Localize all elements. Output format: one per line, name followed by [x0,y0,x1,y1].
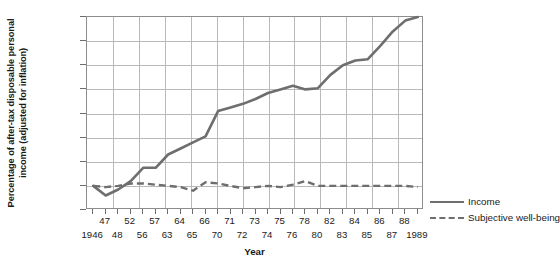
x-axis-tick-label: 88 [391,216,417,226]
x-axis-tick-mark [155,209,156,214]
x-axis-tick-mark [329,209,330,214]
legend-item-subjective-well-being: Subjective well-being [430,210,556,226]
x-axis-tick-mark [117,209,118,214]
x-axis-tick-mark [280,209,281,214]
x-axis-tick-mark [354,209,355,214]
series-line-income [93,17,418,196]
x-axis-tick-label: 66 [192,216,218,226]
data-series-layer [87,17,424,210]
x-axis-tick-label: 74 [254,230,280,240]
x-axis-tick-mark [404,209,405,214]
legend-item-income: Income [430,194,556,210]
x-axis-tick-label: 82 [316,216,342,226]
x-axis-tick-label: 86 [366,216,392,226]
x-axis-tick-label: 73 [242,216,268,226]
x-axis-tick-label: 47 [92,216,118,226]
x-axis-tick-mark [92,209,93,214]
x-axis-tick-label: 64 [167,216,193,226]
x-axis-tick-label: 71 [217,216,243,226]
x-axis-tick-mark [230,209,231,214]
y-axis-title-line2: income (adjusted for inflation) [17,18,29,207]
x-axis-tick-mark [417,209,418,214]
x-axis-tick-mark [304,209,305,214]
legend-line-solid-icon [430,197,464,207]
y-axis-tick-mark [80,209,86,210]
x-axis-tick-label: 56 [129,230,155,240]
x-axis-tick-label: 52 [117,216,143,226]
x-axis-tick-label: 57 [142,216,168,226]
y-axis-title-line1: Percentage of after-tax disposable perso… [6,18,16,207]
x-axis-tick-label: 70 [204,230,230,240]
x-axis-tick-mark [142,209,143,214]
x-axis-tick-label: 75 [267,216,293,226]
x-axis-tick-mark [392,209,393,214]
x-axis-tick-mark [130,209,131,214]
x-axis-tick-label: 63 [154,230,180,240]
x-axis-tick-mark [192,209,193,214]
legend-label-subjective-well-being: Subjective well-being [468,213,560,223]
x-axis-tick-mark [255,209,256,214]
x-axis-tick-label: 1946 [79,230,105,240]
legend-line-dashed-icon [430,213,464,223]
x-axis-tick-label: 48 [104,230,130,240]
x-axis-tick-label: 85 [354,230,380,240]
x-axis-tick-label: 80 [304,230,330,240]
x-axis-tick-mark [167,209,168,214]
plot-area [86,16,423,209]
x-axis-tick-mark [205,209,206,214]
x-axis-tick-mark [292,209,293,214]
x-axis-tick-mark [367,209,368,214]
x-axis-tick-label: 65 [179,230,205,240]
x-axis-tick-mark [267,209,268,214]
x-axis-tick-label: 84 [341,216,367,226]
legend-label-income: Income [468,197,500,207]
x-axis-tick-mark [105,209,106,214]
x-axis-tick-label: 87 [379,230,405,240]
x-axis-tick-label: 78 [291,216,317,226]
x-axis-tick-mark [217,209,218,214]
series-line-subjective-well-being [93,181,418,191]
x-axis-tick-mark [379,209,380,214]
y-axis-title: Percentage of after-tax disposable perso… [0,0,34,225]
x-axis-tick-mark [180,209,181,214]
x-axis-title: Year [86,246,423,257]
x-axis-tick-label: 72 [229,230,255,240]
x-axis-tick-label: 76 [279,230,305,240]
x-axis-tick-mark [342,209,343,214]
x-axis-tick-mark [317,209,318,214]
x-axis-tick-label: 83 [329,230,355,240]
x-axis-tick-label: 1989 [404,230,430,240]
chart-legend: Income Subjective well-being [430,194,556,226]
x-axis-tick-mark [242,209,243,214]
